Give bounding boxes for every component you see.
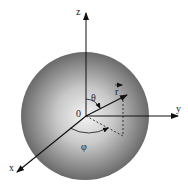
theta-label: θ	[91, 92, 96, 103]
spherical-coordinates-diagram: z y x 0 r θ φ	[0, 0, 188, 189]
y-axis-label: y	[176, 103, 181, 114]
x-axis-label: x	[9, 162, 14, 173]
z-axis-label: z	[76, 6, 81, 17]
origin-label: 0	[76, 108, 81, 119]
phi-label: φ	[81, 141, 87, 152]
